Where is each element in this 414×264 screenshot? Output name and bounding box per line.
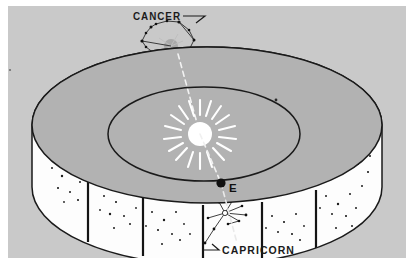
zodiac-band-figure: E CANCER CAPRICORN [0,0,414,264]
capricorn-label: CAPRICORN [222,244,295,256]
cancer-label: CANCER [133,10,181,22]
earth-marker [216,178,225,187]
capricorn-center-star [222,210,227,215]
earth-label: E [229,182,237,194]
stray-speck-left-margin [9,69,11,71]
cancer-asterism-chord [179,22,194,40]
diagram-canvas: E CANCER CAPRICORN [0,0,414,264]
cancer-leader-line [183,16,205,23]
stray-star-on-disc [275,99,278,102]
